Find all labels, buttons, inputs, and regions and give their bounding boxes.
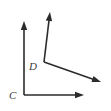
vertex-label-c: C: [9, 89, 17, 101]
geometry-figure: C D: [0, 0, 111, 111]
vertex-label-d: D: [28, 60, 37, 72]
figure-canvas: C D: [0, 0, 111, 111]
